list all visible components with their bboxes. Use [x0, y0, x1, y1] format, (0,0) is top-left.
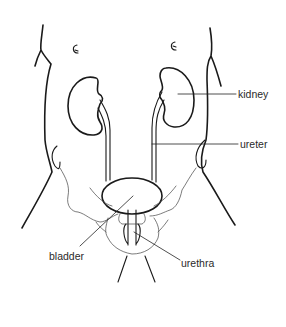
right-ureter [152, 92, 164, 182]
right-kidney-shape [160, 68, 194, 127]
bladder-label: bladder [49, 251, 84, 262]
urethra-shape [124, 210, 140, 245]
right-torso-outline [202, 28, 235, 225]
right-nipple-mark [171, 42, 176, 50]
left-torso-outline [22, 25, 52, 228]
urinary-system-diagram: kidney ureter bladder urethra [0, 0, 286, 327]
ureter-label: ureter [240, 139, 267, 150]
left-ureter [98, 100, 110, 181]
urethra-leader-line [134, 232, 180, 260]
bladder-shape [102, 178, 162, 214]
prostate-region [119, 214, 146, 224]
left-nipple-mark [73, 45, 78, 53]
urethra-label: urethra [181, 258, 214, 269]
left-leg-line [118, 256, 127, 282]
left-kidney-shape [68, 77, 103, 135]
left-pelvis-outline [60, 168, 118, 222]
anatomy-drawing [0, 0, 286, 327]
kidney-label: kidney [238, 89, 268, 100]
right-leg-line [145, 256, 155, 282]
right-pelvis-outline [150, 168, 196, 216]
left-flank-curve [52, 146, 60, 169]
